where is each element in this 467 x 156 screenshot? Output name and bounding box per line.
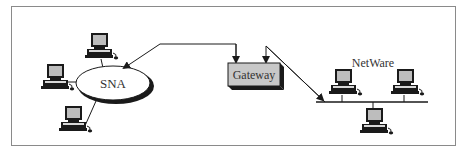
gateway-box-bottom [228, 86, 284, 90]
sna-label: SNA [100, 76, 127, 91]
network-diagram: SNA Gateway NetWare [0, 0, 467, 156]
gateway-label: Gateway [233, 68, 276, 82]
gateway-box-right [280, 63, 284, 90]
netware-label: NetWare [352, 56, 394, 70]
